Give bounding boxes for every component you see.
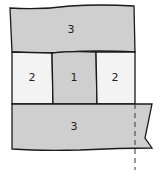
panel-middle-left-label: 2 [29,71,36,84]
panel-bottom [12,104,152,150]
panel-top-label: 3 [68,23,75,36]
panel-middle-right-label: 2 [112,71,119,84]
panel-bottom-label: 3 [71,120,78,133]
panel-middle-center-label: 1 [71,71,78,84]
quilt-diagram: 3 2 1 2 3 [0,0,163,172]
